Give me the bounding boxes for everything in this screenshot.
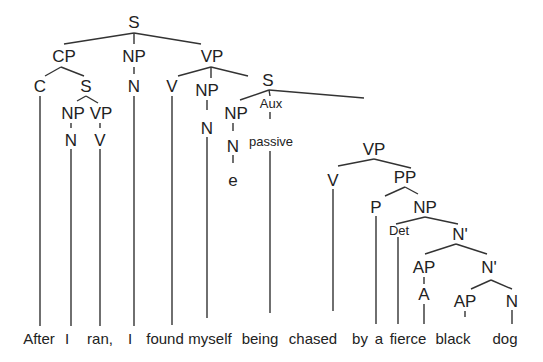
node-VP-main: VP xyxy=(201,47,224,66)
node-N-subject: N xyxy=(128,77,140,96)
word-found: found xyxy=(146,330,184,347)
node-A-fierce: A xyxy=(418,285,430,304)
node-NP-object: NP xyxy=(195,81,219,100)
node-PP: PP xyxy=(394,168,417,187)
word-a: a xyxy=(375,330,384,347)
word-i-1: I xyxy=(65,330,69,347)
node-N-bar-1: N' xyxy=(452,225,468,244)
syntax-tree: S CP NP VP C S N V NP S NP VP N V N NP A… xyxy=(0,0,543,362)
node-S-root: S xyxy=(128,13,139,32)
node-V-found: V xyxy=(166,77,178,96)
node-CP: CP xyxy=(52,47,76,66)
node-VP-passive: VP xyxy=(363,140,386,159)
node-e-empty: e xyxy=(228,171,237,190)
node-P: P xyxy=(370,198,381,217)
node-N-bar-2: N' xyxy=(481,258,497,277)
node-V-cp: V xyxy=(94,131,106,150)
word-being: being xyxy=(242,330,279,347)
word-by: by xyxy=(352,330,368,347)
word-chased: chased xyxy=(289,330,337,347)
node-VP-cp: VP xyxy=(90,104,113,123)
node-C: C xyxy=(34,77,46,96)
node-NP-subject: NP xyxy=(122,47,146,66)
word-ran: ran, xyxy=(87,330,113,347)
word-black: black xyxy=(435,330,471,347)
node-S-complement: S xyxy=(262,71,273,90)
node-Det: Det xyxy=(389,223,410,238)
node-NP-empty: NP xyxy=(224,104,248,123)
node-AP-fierce: AP xyxy=(413,258,436,277)
node-V-chased: V xyxy=(327,171,339,190)
word-dog: dog xyxy=(492,330,517,347)
node-AP-black: AP xyxy=(454,292,477,311)
node-N-empty: N xyxy=(227,137,239,156)
node-N-cp: N xyxy=(65,131,77,150)
word-i-2: I xyxy=(128,330,132,347)
node-Aux: Aux xyxy=(260,96,283,111)
node-NP-pp: NP xyxy=(413,198,437,217)
node-S-embedded: S xyxy=(80,77,91,96)
word-after: After xyxy=(23,330,55,347)
word-fierce: fierce xyxy=(390,330,427,347)
tree-branches xyxy=(40,33,512,326)
terminal-words: After I ran, I found myself being chased… xyxy=(23,330,517,347)
word-myself: myself xyxy=(188,330,232,347)
tree-nodes: S CP NP VP C S N V NP S NP VP N V N NP A… xyxy=(34,13,518,311)
node-NP-cp: NP xyxy=(61,104,85,123)
node-N-object: N xyxy=(201,119,213,138)
node-passive: passive xyxy=(249,134,293,149)
node-N-dog: N xyxy=(506,292,518,311)
